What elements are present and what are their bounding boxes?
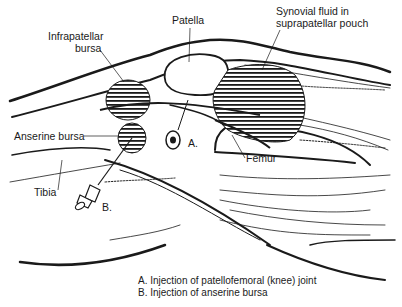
suprapatellar-pouch <box>213 65 305 142</box>
synovial-label-line1: Synovial fluid in <box>276 5 349 17</box>
synovial-label-line2: suprapatellar pouch <box>276 17 368 29</box>
tibia-label: Tibia <box>34 186 56 198</box>
caption-line-b: B. Injection of anserine bursa <box>138 287 316 299</box>
caption-line-a: A. Injection of patellofemoral (knee) jo… <box>138 275 316 287</box>
infrapatellar-bursa-label-line1: Infrapatellar <box>48 30 103 42</box>
femur-label: Femur <box>246 152 276 164</box>
figure-caption: A. Injection of patellofemoral (knee) jo… <box>138 275 316 299</box>
infrapatellar-bursa-label-line2: bursa <box>75 42 101 54</box>
marker-b-label: B. <box>102 201 112 213</box>
patella-label: Patella <box>172 14 204 26</box>
marker-a-label: A. <box>188 137 198 149</box>
infrapatellar-bursa <box>106 80 150 120</box>
knee-anatomy-diagram <box>0 0 402 307</box>
anserine-bursa-label: Anserine bursa <box>14 130 85 142</box>
